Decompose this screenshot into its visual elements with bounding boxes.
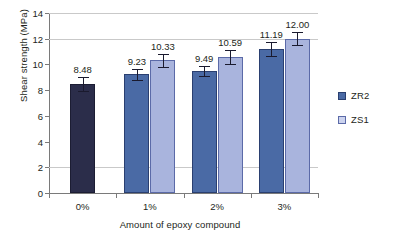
y-tick-label: 4 (38, 136, 43, 147)
bar-zr2-2pct (192, 71, 217, 193)
error-bar-cap-lower (266, 56, 277, 57)
legend: ZR2 ZS1 (338, 90, 370, 138)
bar-zs1-3pct (285, 39, 310, 193)
error-bar-cap-upper (292, 32, 303, 33)
y-tick-mark (45, 90, 49, 91)
error-bar-cap-upper (132, 69, 143, 70)
error-bar-cap-lower (225, 64, 236, 65)
plot-area: 02468101214 0%1%2%3% 8.489.2310.339.4910… (49, 13, 318, 193)
bar-zr2-0pct (70, 84, 95, 193)
error-bar-cap-lower (292, 45, 303, 46)
x-tick-label: 3% (278, 201, 292, 212)
error-bar-cap-upper (266, 42, 277, 43)
gridline (49, 13, 318, 14)
x-axis-title: Amount of epoxy compound (40, 219, 320, 230)
data-label-zs1-3pct: 12.00 (285, 19, 309, 30)
x-tick-mark (49, 193, 50, 198)
y-tick-mark (45, 13, 49, 14)
y-axis-line (49, 13, 50, 193)
error-bar (204, 66, 205, 76)
y-tick-mark (45, 39, 49, 40)
bar-zr2-3pct (259, 49, 284, 193)
legend-label-zr2: ZR2 (351, 90, 370, 101)
y-tick-label: 12 (32, 33, 43, 44)
error-bar-cap-lower (158, 67, 169, 68)
y-tick-mark (45, 167, 49, 168)
error-bar (163, 54, 164, 67)
data-label-zr2-1pct: 9.23 (128, 56, 147, 67)
data-label-zs1-2pct: 10.59 (218, 37, 242, 48)
shear-strength-bar-chart: Shear strength (MPa) 02468101214 0%1%2%3… (0, 0, 404, 239)
y-tick-label: 6 (38, 110, 43, 121)
error-bar (271, 42, 272, 56)
x-tick-label: 0% (76, 201, 90, 212)
legend-swatch-icon-zr2 (338, 92, 346, 100)
legend-item-zs1: ZS1 (338, 114, 370, 125)
data-label-zr2-0pct: 8.48 (73, 64, 92, 75)
error-bar (297, 32, 298, 45)
error-bar-cap-upper (158, 54, 169, 55)
y-tick-mark (45, 142, 49, 143)
bar-zs1-2pct (218, 57, 243, 193)
x-tick-mark (251, 193, 252, 198)
x-tick-mark (116, 193, 117, 198)
error-bar (83, 77, 84, 90)
y-tick-mark (45, 64, 49, 65)
error-bar (230, 50, 231, 64)
y-tick-label: 0 (38, 188, 43, 199)
error-bar-cap-lower (132, 80, 143, 81)
y-tick-mark (45, 116, 49, 117)
y-axis-title: Shear strength (MPa) (18, 0, 29, 131)
error-bar-cap-lower (199, 76, 210, 77)
x-tick-mark (184, 193, 185, 198)
legend-swatch-icon-zs1 (338, 116, 346, 124)
error-bar-cap-upper (199, 66, 210, 67)
error-bar (137, 69, 138, 81)
error-bar-cap-upper (78, 77, 89, 78)
bar-zs1-1pct (150, 60, 175, 193)
data-label-zr2-3pct: 11.19 (260, 29, 283, 40)
legend-label-zs1: ZS1 (351, 114, 369, 125)
y-tick-label: 10 (32, 59, 43, 70)
error-bar-cap-upper (225, 50, 236, 51)
x-tick-label: 2% (210, 201, 224, 212)
legend-item-zr2: ZR2 (338, 90, 370, 101)
x-tick-label: 1% (143, 201, 157, 212)
y-tick-label: 2 (38, 162, 43, 173)
y-tick-label: 14 (32, 8, 43, 19)
error-bar-cap-lower (78, 91, 89, 92)
y-tick-label: 8 (38, 85, 43, 96)
x-tick-mark (318, 193, 319, 198)
data-label-zs1-1pct: 10.33 (151, 41, 175, 52)
bar-zr2-1pct (124, 74, 149, 193)
data-label-zr2-2pct: 9.49 (195, 53, 214, 64)
